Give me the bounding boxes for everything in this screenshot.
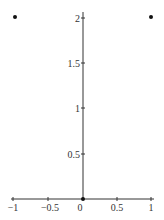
x-tick-label-1: 1: [149, 202, 154, 213]
data-point: [81, 197, 85, 201]
y-tick-label-2: 2: [75, 13, 80, 24]
y-tick-label-1: 1: [75, 103, 80, 114]
x-tick-label-neg1: −1: [8, 202, 19, 213]
x-tick-label-0-5: 0.5: [111, 202, 124, 213]
plot-canvas: 2 1.5 1 0.5 −1 −0.5 0 0.5 1: [0, 0, 164, 220]
y-tick-label-1-5: 1.5: [68, 58, 81, 69]
y-tick-label-0-5: 0.5: [68, 149, 81, 160]
x-tick-label-0: 0: [78, 202, 83, 213]
data-point: [13, 15, 17, 19]
x-tick-label-neg0-5: −0.5: [41, 202, 59, 213]
data-point: [149, 15, 153, 19]
